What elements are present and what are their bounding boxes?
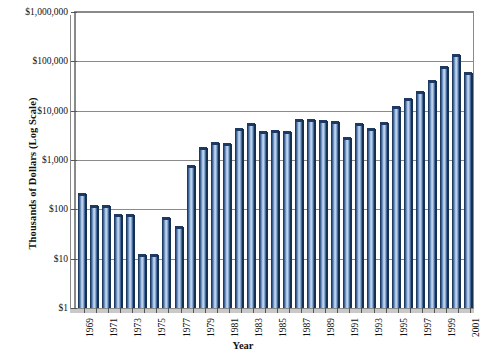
- bar: [428, 83, 436, 308]
- bar: [150, 257, 158, 308]
- x-tick-mark: [301, 308, 302, 313]
- x-tick-mark: [144, 308, 145, 313]
- bar: [102, 208, 110, 308]
- bar: [319, 123, 327, 308]
- x-tick-mark: [386, 308, 387, 313]
- x-tick-mark: [217, 308, 218, 313]
- bar: [90, 208, 98, 308]
- x-tick-label: 1987: [302, 318, 312, 337]
- y-tick-label: $1: [4, 303, 68, 313]
- x-tick-mark: [289, 308, 290, 313]
- bar: [307, 122, 315, 308]
- x-tick-label: 1983: [254, 318, 264, 337]
- bar: [114, 217, 122, 308]
- bar: [175, 229, 183, 308]
- x-tick-mark: [398, 308, 399, 313]
- y-tick-label: $1,000: [4, 155, 68, 165]
- bar: [295, 122, 303, 308]
- bar-side-face: [338, 122, 340, 308]
- x-tick-mark: [156, 308, 157, 313]
- x-tick-mark: [193, 308, 194, 313]
- x-tick-mark: [422, 308, 423, 313]
- bar-side-face: [374, 129, 376, 308]
- bar-side-face: [362, 124, 364, 308]
- x-tick-label: 1989: [326, 318, 336, 337]
- bar-side-face: [278, 131, 280, 308]
- bar: [343, 140, 351, 308]
- x-tick-mark: [349, 308, 350, 313]
- x-tick-mark: [229, 308, 230, 313]
- x-tick-mark: [181, 308, 182, 313]
- bar-side-face: [230, 144, 232, 308]
- x-tick-mark: [313, 308, 314, 313]
- x-tick-mark: [337, 308, 338, 313]
- y-tick-mark: [71, 308, 77, 309]
- bar: [126, 217, 134, 308]
- bar: [392, 109, 400, 308]
- bar: [235, 131, 243, 308]
- bar: [283, 134, 291, 308]
- bar-side-face: [97, 206, 99, 308]
- gridline: [76, 308, 474, 309]
- bar: [199, 150, 207, 308]
- bar: [259, 134, 267, 308]
- bar: [380, 125, 388, 308]
- bar: [404, 101, 412, 308]
- bar-side-face: [145, 255, 147, 308]
- bar: [187, 168, 195, 308]
- x-tick-mark: [84, 308, 85, 313]
- bar-side-face: [109, 206, 111, 308]
- bar-side-face: [254, 124, 256, 308]
- bar-side-face: [121, 215, 123, 308]
- x-tick-label: 1985: [278, 318, 288, 337]
- bar: [271, 133, 279, 308]
- x-tick-label: 2001: [471, 318, 481, 337]
- y-axis-line-back: [70, 15, 71, 313]
- y-tick-label: $10: [4, 254, 68, 264]
- bar: [138, 257, 146, 308]
- x-tick-mark: [96, 308, 97, 313]
- bar-side-face: [169, 218, 171, 308]
- y-tick-label: $1,000,000: [4, 7, 68, 17]
- bar-side-face: [314, 120, 316, 308]
- bar: [464, 75, 472, 308]
- bar-side-face: [326, 121, 328, 308]
- x-tick-mark: [361, 308, 362, 313]
- bar-side-face: [85, 194, 87, 308]
- bar-side-face: [218, 143, 220, 308]
- x-tick-label: 1995: [399, 318, 409, 337]
- bar: [223, 146, 231, 308]
- x-tick-mark: [241, 308, 242, 313]
- bar-side-face: [435, 81, 437, 308]
- x-tick-label: 1971: [109, 318, 119, 337]
- y-tick-label: $100: [4, 204, 68, 214]
- bar-side-face: [133, 215, 135, 308]
- x-tick-mark: [374, 308, 375, 313]
- x-tick-label: 1979: [206, 318, 216, 337]
- bar-side-face: [194, 166, 196, 308]
- bar: [211, 145, 219, 308]
- bar: [452, 57, 460, 308]
- x-tick-mark: [132, 308, 133, 313]
- x-tick-mark: [108, 308, 109, 313]
- x-tick-label: 1973: [133, 318, 143, 337]
- bar-side-face: [423, 92, 425, 308]
- x-tick-label: 1969: [85, 318, 95, 337]
- bar-side-face: [471, 73, 473, 308]
- x-tick-label: 1993: [374, 318, 384, 337]
- x-tick-mark: [458, 308, 459, 313]
- x-tick-mark: [410, 308, 411, 313]
- bar-side-face: [350, 138, 352, 308]
- x-tick-mark: [253, 308, 254, 313]
- x-tick-mark: [168, 308, 169, 313]
- x-tick-mark: [277, 308, 278, 313]
- x-tick-label: 1991: [350, 318, 360, 337]
- x-tick-label: 1997: [423, 318, 433, 337]
- bar-side-face: [459, 55, 461, 308]
- x-tick-label: 1977: [182, 318, 192, 337]
- bar-series: [76, 12, 474, 308]
- bar: [78, 196, 86, 308]
- y-tick-label: $10,000: [4, 106, 68, 116]
- bar: [355, 126, 363, 308]
- bar-side-face: [399, 107, 401, 308]
